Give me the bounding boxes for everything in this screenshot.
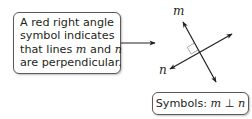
line-n-label: n xyxy=(159,63,167,77)
variable-n: n xyxy=(238,97,245,110)
line-n xyxy=(170,34,232,69)
perpendicular-symbol-icon: ⊥ xyxy=(225,97,235,110)
variable-m: m xyxy=(211,97,222,110)
symbols-label: Symbols: xyxy=(156,97,211,110)
symbols-box: Symbols: m ⊥ n xyxy=(152,92,249,115)
line-m-label: m xyxy=(173,4,184,18)
right-angle-marker xyxy=(187,43,198,54)
